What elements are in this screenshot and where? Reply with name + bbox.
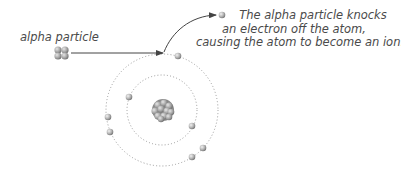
electron-icon — [189, 123, 196, 130]
alpha-particle-label: alpha particle — [20, 31, 99, 45]
electron-icon — [107, 129, 114, 136]
caption: The alpha particle knocks an electron of… — [196, 9, 392, 50]
electron-icon — [175, 53, 182, 60]
caption-line-2: an electron off the atom, — [196, 23, 392, 37]
alpha-particle-icon — [54, 46, 68, 59]
electron-icon — [126, 94, 133, 101]
nucleus-icon — [151, 99, 174, 122]
caption-line-1: The alpha particle knocks — [196, 9, 392, 23]
electron-icon — [105, 114, 112, 121]
caption-line-3: causing the atom to become an ion. — [196, 36, 392, 50]
electron-icon — [200, 145, 207, 152]
electron-icon — [189, 154, 196, 161]
